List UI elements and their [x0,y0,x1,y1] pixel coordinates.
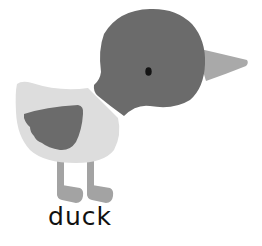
duck-illustration [0,0,262,246]
duck-eye [145,67,151,76]
duck-head [94,9,205,116]
flashcard: duck [0,0,262,246]
duck-legs [57,158,113,203]
caption-label: duck [48,202,112,232]
